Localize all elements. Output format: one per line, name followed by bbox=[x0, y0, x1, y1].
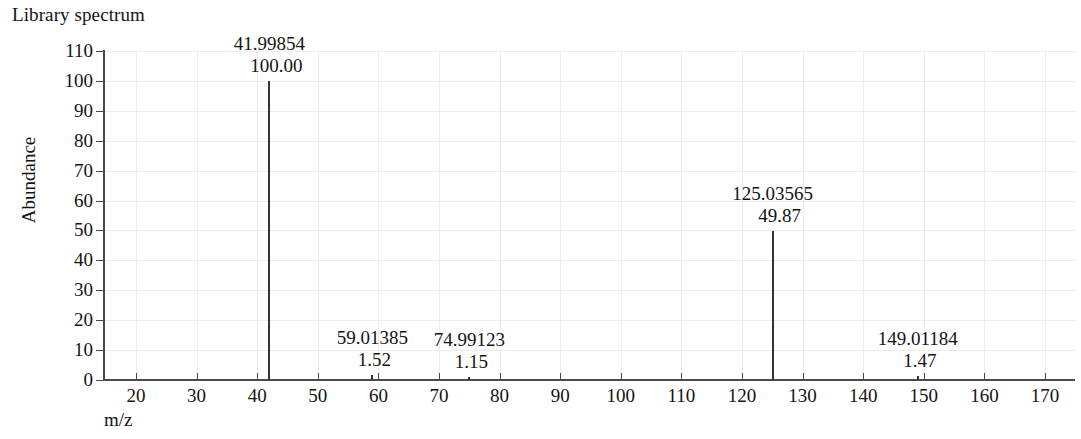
x-axis-tick-label: 110 bbox=[651, 386, 711, 406]
x-axis-tick bbox=[924, 373, 925, 380]
y-axis-tick bbox=[96, 230, 104, 231]
y-axis-tick bbox=[96, 51, 104, 52]
y-axis-tick-label: 20 bbox=[33, 310, 93, 329]
gridline-horizontal bbox=[103, 260, 1075, 261]
y-axis-tick-label: 40 bbox=[33, 250, 93, 269]
y-axis-tick-label: 10 bbox=[33, 340, 93, 359]
peak-mz-value: 74.99123 bbox=[359, 329, 579, 351]
peak-line bbox=[772, 231, 774, 380]
gridline-vertical bbox=[621, 51, 622, 380]
x-axis-tick bbox=[439, 373, 440, 380]
page-title: Library spectrum bbox=[12, 4, 145, 26]
gridline-horizontal bbox=[103, 171, 1075, 172]
gridline-vertical bbox=[197, 51, 198, 380]
y-axis-tick bbox=[96, 380, 104, 381]
x-axis-tick-label: 80 bbox=[470, 386, 530, 406]
y-axis-tick-label: 0 bbox=[33, 370, 93, 389]
x-axis-tick bbox=[257, 373, 258, 380]
y-axis-tick bbox=[96, 201, 104, 202]
x-axis-tick-label: 140 bbox=[833, 386, 893, 406]
x-axis-tick-label: 120 bbox=[712, 386, 772, 406]
y-axis-tick bbox=[96, 290, 104, 291]
peak-line bbox=[917, 376, 919, 380]
y-axis-tick-label: 80 bbox=[33, 131, 93, 150]
y-axis-tick bbox=[96, 320, 104, 321]
y-axis-tick-label: 30 bbox=[33, 280, 93, 299]
x-axis-tick bbox=[621, 373, 622, 380]
peak-label: 41.99854100.00 bbox=[159, 33, 379, 77]
x-axis-tick-label: 150 bbox=[894, 386, 954, 406]
y-axis-tick bbox=[96, 350, 104, 351]
peak-abundance-value: 49.87 bbox=[677, 205, 883, 227]
x-axis-tick-label: 20 bbox=[106, 386, 166, 406]
x-axis-tick-label: 70 bbox=[409, 386, 469, 406]
y-axis-tick-label: 100 bbox=[33, 71, 93, 90]
x-axis-tick-label: 50 bbox=[288, 386, 348, 406]
gridline-horizontal bbox=[103, 201, 1075, 202]
y-axis-tick-label: 110 bbox=[33, 41, 93, 60]
peak-abundance-value: 1.15 bbox=[363, 351, 579, 373]
x-axis-tick bbox=[560, 373, 561, 380]
peak-mz-value: 125.03565 bbox=[663, 183, 883, 205]
x-axis-tick-label: 130 bbox=[773, 386, 833, 406]
peak-line bbox=[468, 377, 470, 380]
peak-abundance-value: 1.47 bbox=[812, 350, 1028, 372]
x-axis-tick-label: 170 bbox=[1015, 386, 1075, 406]
peak-line bbox=[371, 375, 373, 380]
x-axis-tick-label: 160 bbox=[954, 386, 1014, 406]
x-axis-tick bbox=[681, 373, 682, 380]
x-axis-tick bbox=[1045, 373, 1046, 380]
y-axis-tick bbox=[96, 171, 104, 172]
gridline-horizontal bbox=[103, 81, 1075, 82]
gridline-horizontal bbox=[103, 290, 1075, 291]
x-axis-tick bbox=[742, 373, 743, 380]
x-axis-tick-label: 30 bbox=[167, 386, 227, 406]
x-axis-tick-label: 90 bbox=[530, 386, 590, 406]
x-axis-tick bbox=[500, 373, 501, 380]
x-axis-tick bbox=[984, 373, 985, 380]
y-axis-tick bbox=[96, 111, 104, 112]
x-axis-line bbox=[103, 379, 1075, 381]
peak-abundance-value: 100.00 bbox=[173, 55, 379, 77]
gridline-horizontal bbox=[103, 141, 1075, 142]
peak-label: 74.991231.15 bbox=[359, 329, 579, 373]
y-axis-tick-label: 90 bbox=[33, 101, 93, 120]
y-axis-line bbox=[103, 50, 105, 381]
peak-label: 125.0356549.87 bbox=[663, 183, 883, 227]
x-axis-tick-label: 60 bbox=[348, 386, 408, 406]
x-axis-tick bbox=[803, 373, 804, 380]
y-axis-tick-label: 60 bbox=[33, 191, 93, 210]
x-axis-tick-label: 100 bbox=[591, 386, 651, 406]
peak-mz-value: 149.01184 bbox=[808, 328, 1028, 350]
gridline-vertical bbox=[257, 51, 258, 380]
x-axis-label: m/z bbox=[104, 410, 133, 430]
y-axis-tick bbox=[96, 260, 104, 261]
gridline-horizontal bbox=[103, 320, 1075, 321]
y-axis-tick-label: 50 bbox=[33, 220, 93, 239]
gridline-vertical bbox=[136, 51, 137, 380]
x-axis-tick-label: 40 bbox=[227, 386, 287, 406]
y-axis-tick-label: 70 bbox=[33, 161, 93, 180]
gridline-horizontal bbox=[103, 230, 1075, 231]
x-axis-tick bbox=[318, 373, 319, 380]
y-axis-tick bbox=[96, 141, 104, 142]
x-axis-tick bbox=[863, 373, 864, 380]
gridline-vertical bbox=[1045, 51, 1046, 380]
peak-label: 149.011841.47 bbox=[808, 328, 1028, 372]
x-axis-tick bbox=[136, 373, 137, 380]
gridline-horizontal bbox=[103, 111, 1075, 112]
peak-mz-value: 41.99854 bbox=[159, 33, 379, 55]
x-axis-tick bbox=[197, 373, 198, 380]
mass-spectrum-figure: Library spectrum Abundance m/z 010203040… bbox=[0, 0, 1081, 439]
x-axis-tick bbox=[378, 373, 379, 380]
y-axis-tick bbox=[96, 81, 104, 82]
